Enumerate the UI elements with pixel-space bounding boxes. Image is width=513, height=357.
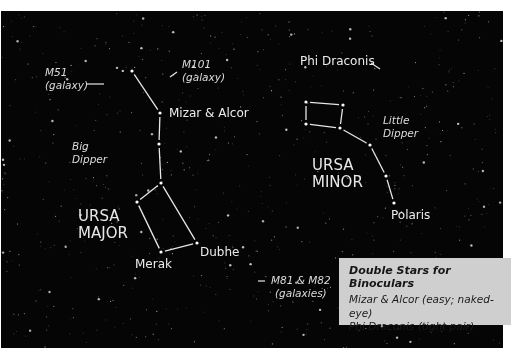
little-dipper-star — [341, 103, 344, 106]
little-dipper-star — [304, 100, 307, 103]
little-dipper-star — [384, 174, 387, 177]
big-dipper-line — [159, 148, 161, 179]
little-dipper-line — [310, 102, 339, 104]
little-dipper-line — [387, 180, 393, 199]
big-dipper-line — [140, 185, 158, 199]
m81-m82-label: M81 & M82(galaxies) — [271, 274, 331, 299]
little-dipper-star — [392, 201, 395, 204]
big-dipper-star — [159, 250, 162, 253]
big-dipper-star — [157, 142, 160, 145]
dubhe-label: Dubhe — [200, 245, 239, 259]
m101-label: M101(galaxy) — [182, 58, 225, 83]
m101-pointer-line — [170, 72, 177, 77]
big-dipper-star — [159, 181, 162, 184]
polaris-label: Polaris — [391, 208, 430, 222]
little-dipper-star — [338, 126, 341, 129]
ursa-minor-label: URSAMINOR — [312, 157, 363, 192]
big-dipper-star — [195, 241, 198, 244]
big-dipper-label: BigDipper — [72, 140, 107, 165]
little-dipper-label: LittleDipper — [383, 114, 418, 139]
little-dipper-line — [341, 109, 343, 124]
mizar-alcor-label: Mizar & Alcor — [169, 106, 249, 120]
big-dipper-line — [163, 186, 195, 239]
info-box-line-mizar: Mizar & Alcor (easy; naked-eye) — [349, 293, 511, 320]
big-dipper-star — [158, 111, 161, 114]
big-dipper-line — [159, 117, 160, 140]
big-dipper-line — [139, 206, 160, 249]
little-dipper-line — [310, 124, 336, 127]
merak-label: Merak — [135, 257, 172, 271]
phi-draconis-label: Phi Draconis — [300, 54, 375, 68]
little-dipper-line — [372, 149, 384, 173]
little-dipper-star — [304, 122, 307, 125]
big-dipper-line — [134, 74, 158, 109]
info-box-title: Double Stars for Binoculars — [349, 264, 511, 290]
info-box-line-phi-draconis: Phi Draconis (tight pair) — [349, 320, 511, 334]
little-dipper-star — [368, 143, 371, 146]
m51-label: M51(galaxy) — [45, 66, 88, 91]
big-dipper-star — [130, 69, 133, 72]
little-dipper-line — [343, 130, 366, 143]
big-dipper-star — [135, 200, 138, 203]
double-stars-info-box: Double Stars for Binoculars Mizar & Alco… — [339, 258, 511, 325]
ursa-major-label: URSAMAJOR — [78, 208, 128, 243]
big-dipper-line — [165, 244, 193, 251]
